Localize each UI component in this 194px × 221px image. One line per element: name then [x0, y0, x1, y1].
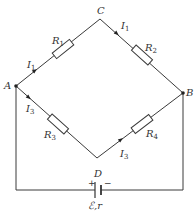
node-a-dot: [14, 84, 18, 88]
label-i1-cb: I1: [120, 20, 129, 33]
circuit-diagram: C A B D R1 R2 R3 R4 I1 I1 I3 I3 + − ℰ,r: [0, 0, 194, 221]
label-battery-plus: +: [88, 178, 96, 188]
label-r2: R2: [144, 42, 157, 55]
label-r3: R3: [43, 129, 56, 142]
label-r1: R1: [51, 35, 64, 48]
label-battery-emf: ℰ,r: [88, 200, 103, 211]
label-node-b: B: [185, 87, 193, 98]
battery: [95, 182, 101, 198]
label-node-c: C: [97, 5, 105, 16]
label-i3-db: I3: [119, 148, 128, 161]
wires: [16, 19, 183, 190]
label-i1-ac: I1: [26, 59, 35, 72]
label-node-a: A: [3, 80, 11, 91]
node-b-dot: [181, 91, 185, 95]
label-i3-ad: I3: [25, 103, 34, 116]
label-battery-minus: −: [104, 178, 112, 188]
label-r4: R4: [145, 128, 159, 141]
